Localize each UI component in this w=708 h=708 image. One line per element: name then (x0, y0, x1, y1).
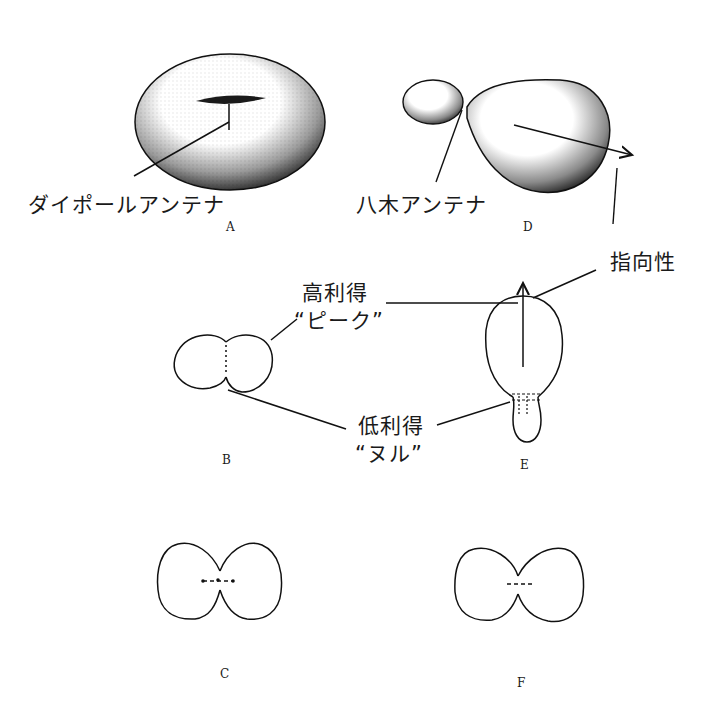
null-label: “ヌル” (355, 437, 423, 467)
figure-label-e: E (520, 458, 529, 472)
dipole-antenna-label: ダイポールアンテナ (28, 188, 225, 218)
figure-label-f: F (517, 676, 525, 690)
figure-label-a: A (226, 220, 235, 234)
figure-c-pattern (158, 543, 282, 619)
figure-f-pattern (455, 548, 584, 621)
high-gain-label: 高利得 (302, 276, 368, 306)
antenna-pattern-diagram (0, 0, 708, 708)
figure-label-c: C (220, 667, 229, 681)
directivity-leader-line (613, 168, 617, 224)
low-gain-label: 低利得 (358, 409, 424, 439)
figure-label-d: D (523, 220, 533, 234)
figure-a-torus (134, 54, 325, 190)
low-gain-leader-line (437, 402, 510, 425)
yagi-antenna-label: 八木アンテナ (356, 188, 487, 218)
directivity-label: 指向性 (610, 245, 676, 275)
figure-label-b: B (222, 453, 231, 467)
peak-label: “ピーク” (294, 304, 384, 334)
figure-b-pattern (174, 319, 346, 429)
null-leader-line (228, 390, 346, 429)
directivity-pointer-line (533, 270, 596, 298)
